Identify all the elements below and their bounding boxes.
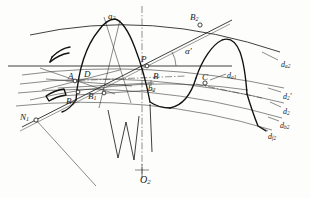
leader-d-2 xyxy=(270,102,281,107)
root-fillet-center-right xyxy=(150,102,170,108)
line-of-action xyxy=(20,20,232,131)
label-B2-top: B2 xyxy=(190,13,198,23)
label-b2: b2 xyxy=(148,84,155,94)
label-O2: O2 xyxy=(140,175,151,186)
point-B3 xyxy=(76,90,80,94)
leader-d-a2 xyxy=(262,52,278,60)
label-d-a1: da1 xyxy=(227,72,236,80)
arc-d-a1 xyxy=(30,84,248,100)
point-B1 xyxy=(102,91,106,95)
label-B3: B1 xyxy=(66,97,74,107)
point-N1 xyxy=(34,118,38,122)
label-B1: B1 xyxy=(88,92,96,102)
label-d-2: d2 xyxy=(283,108,290,116)
label-d-a2: da2 xyxy=(281,61,290,69)
point-P xyxy=(145,64,149,68)
label-d-2-prime: d2′ xyxy=(283,93,291,101)
label-alpha-prime: α′ xyxy=(185,47,192,56)
label-N1: N1 xyxy=(20,113,29,123)
label-d-b2: db2 xyxy=(280,122,289,130)
leader-d-2-prime xyxy=(268,88,281,92)
angle-arc-alpha-prime xyxy=(172,52,176,66)
tooth-gear1-flank-right xyxy=(150,104,152,152)
tooth-left-root xyxy=(46,89,66,101)
label-D: D xyxy=(84,70,91,79)
point-B2 xyxy=(198,23,202,27)
arc-d-f2 xyxy=(16,102,272,130)
label-A: A xyxy=(68,72,74,81)
label-a2: a2 xyxy=(108,12,115,22)
tooth-far-right-partial xyxy=(170,78,196,108)
tooth-gear1-v-left xyxy=(108,110,139,160)
tooth-right-partial xyxy=(196,39,266,131)
tooth-left-partial xyxy=(50,47,70,62)
line-radial-O2-N1 xyxy=(36,120,96,186)
label-d-f2: df2 xyxy=(268,133,276,141)
line-tooth-axis-aux xyxy=(99,20,120,108)
label-C: C xyxy=(202,73,208,82)
label-B: B xyxy=(153,72,159,81)
leader-d-b2 xyxy=(268,117,279,121)
label-P: P xyxy=(141,55,147,64)
gear-meshing-diagram: .thin {stroke:#2a2a2a;stroke-width:0.55;… xyxy=(0,0,310,198)
construction-chords xyxy=(40,68,155,96)
